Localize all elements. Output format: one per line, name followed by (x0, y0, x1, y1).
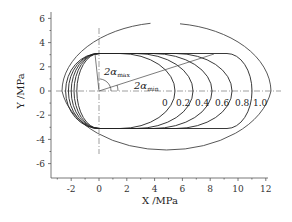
x-tick-label: 2 (124, 184, 130, 194)
curve-label: 0.4 (195, 98, 210, 108)
curve-label: 1.0 (253, 98, 268, 108)
y-axis-title: Y /MPa (15, 73, 26, 110)
y-axis (48, 12, 51, 178)
x-tick-labels: -2 0 2 4 6 8 10 12 (67, 184, 272, 194)
y-tick-label: 6 (39, 14, 45, 24)
y-tick-label: 4 (39, 38, 45, 48)
y-tick-label: -4 (36, 135, 45, 145)
stress-envelope-chart: 6 4 2 0 -2 -4 -6 -2 0 2 4 6 8 10 12 X /M… (0, 0, 292, 222)
x-tick-label: 12 (260, 184, 271, 194)
y-tick-label: -2 (36, 110, 45, 120)
curve-label: 0.8 (235, 98, 250, 108)
y-tick-label: -6 (36, 159, 45, 169)
x-tick-label: 4 (152, 184, 158, 194)
curve-label: 0 (162, 98, 168, 108)
center-lines (56, 28, 281, 154)
x-axis (51, 178, 268, 181)
alpha-min-label: 2αmin (133, 80, 159, 92)
x-tick-label: 0 (96, 184, 102, 194)
x-axis-title: X /MPa (142, 195, 178, 206)
x-tick-label: 10 (232, 184, 244, 194)
curve-label: 0.2 (176, 98, 190, 108)
y-tick-labels: 6 4 2 0 -2 -4 -6 (36, 14, 45, 169)
curve-label: 0.6 (215, 98, 230, 108)
alpha-max-label: 2αmax (103, 66, 130, 78)
x-tick-label: 6 (180, 184, 186, 194)
curve-1.0-outer-ellipse (62, 23, 271, 150)
x-tick-label: -2 (67, 184, 76, 194)
x-tick-label: 8 (207, 184, 213, 194)
y-tick-label: 2 (39, 62, 45, 72)
y-tick-label: 0 (39, 86, 45, 96)
